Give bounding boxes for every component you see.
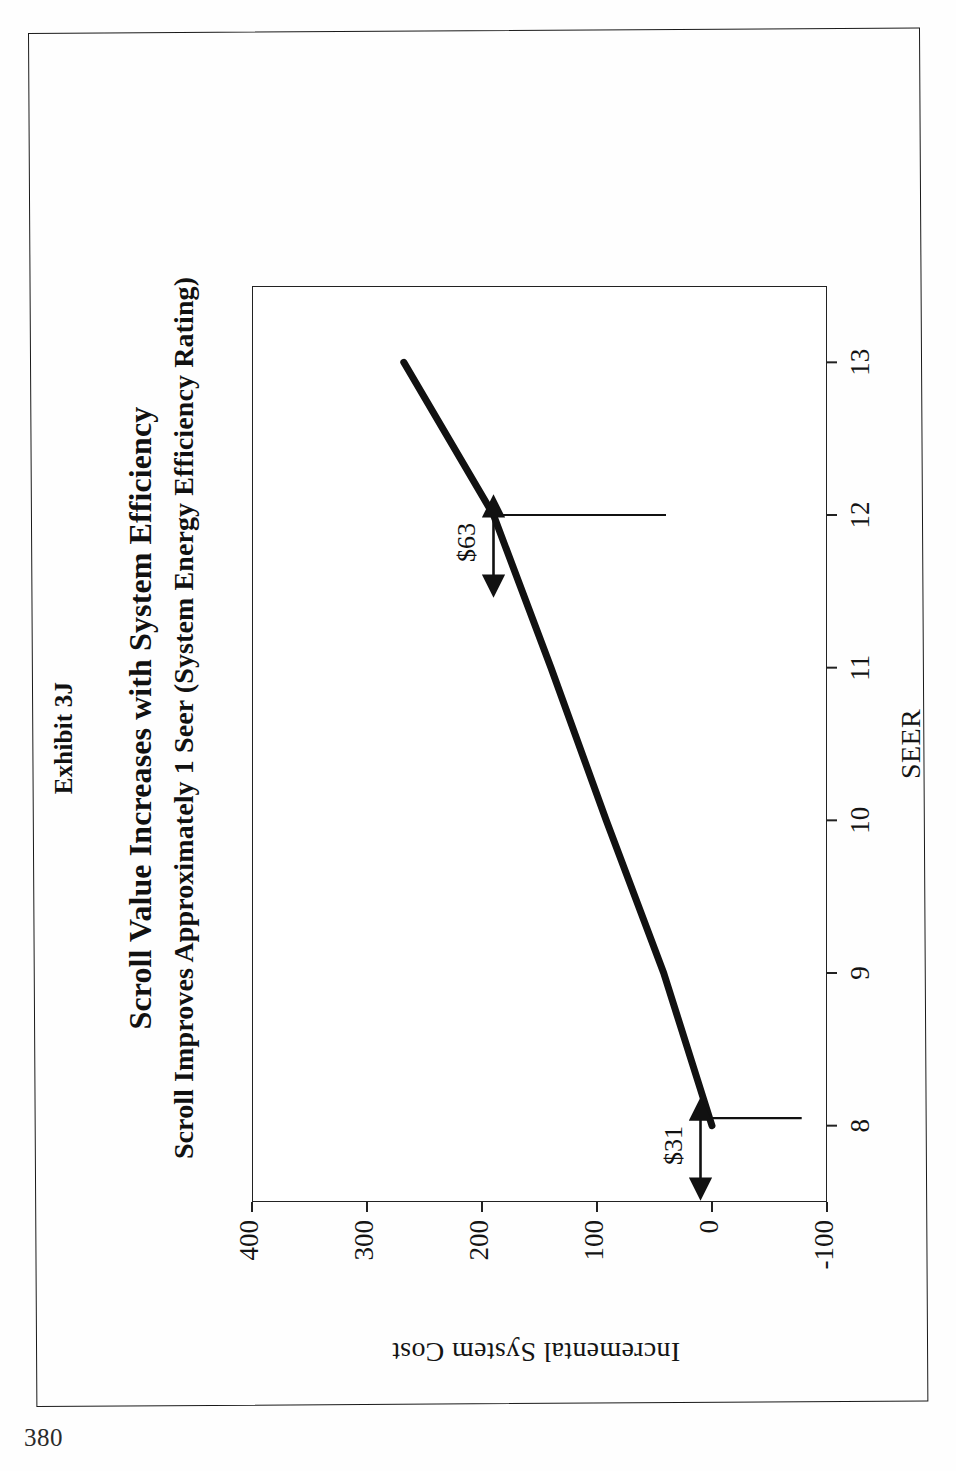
- annotation-63-group: [494, 515, 667, 577]
- y-tick-label: 300: [349, 1220, 380, 1298]
- annotation-label-63: $63: [452, 523, 482, 593]
- y-tick-label: 0: [694, 1220, 725, 1298]
- y-axis-tick-marks: [252, 1202, 827, 1212]
- chart-subtitle: Scroll Improves Approximately 1 Seer (Sy…: [168, 128, 200, 1308]
- rotated-figure-wrapper: Exhibit 3J Scroll Value Increases with S…: [38, 68, 918, 1398]
- annotation-31-group: [701, 1118, 802, 1180]
- x-tick-label: 9: [845, 943, 876, 1003]
- x-axis-title: SEER: [895, 614, 927, 874]
- x-tick-label: 13: [845, 332, 876, 392]
- plot-svg: [252, 286, 827, 1202]
- y-axis-title: Incremental System Cost: [356, 1336, 716, 1368]
- exhibit-figure: Exhibit 3J Scroll Value Increases with S…: [38, 68, 918, 1398]
- y-tick-label: 400: [234, 1220, 265, 1298]
- x-tick-label: 11: [845, 638, 876, 698]
- y-tick-label: -100: [809, 1220, 840, 1298]
- annotation-label-31: $31: [659, 1126, 689, 1196]
- exhibit-label: Exhibit 3J: [50, 478, 78, 998]
- y-tick-label: 100: [579, 1220, 610, 1298]
- y-tick-label: 200: [464, 1220, 495, 1298]
- x-tick-label: 12: [845, 485, 876, 545]
- x-tick-label: 8: [845, 1096, 876, 1156]
- data-line-series: [404, 362, 712, 1125]
- page-number: 380: [24, 1424, 63, 1452]
- x-axis-tick-marks: [827, 362, 837, 1125]
- scanned-page: 380 Exhibit 3J Scroll Value Increases wi…: [0, 0, 956, 1471]
- x-tick-label: 10: [845, 790, 876, 850]
- chart-title: Scroll Value Increases with System Effic…: [122, 158, 159, 1278]
